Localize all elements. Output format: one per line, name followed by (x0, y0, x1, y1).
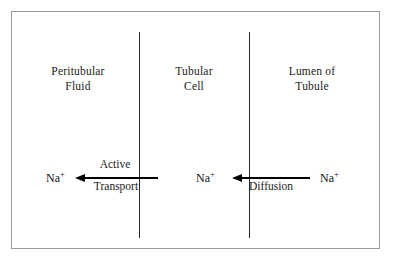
ion-label-sodium-cell: Na+ (196, 172, 215, 184)
ion-label-sodium-lumen: Na+ (320, 172, 339, 184)
ion-symbol: Na (46, 171, 60, 185)
compartment-label-peritubular-fluid: Peritubular Fluid (26, 64, 130, 94)
basolateral-membrane-line (139, 32, 140, 238)
active-transport-label-above: Active (82, 158, 148, 171)
ion-symbol: Na (320, 171, 334, 185)
ion-charge: + (60, 169, 65, 179)
arrow-shaft (240, 177, 310, 179)
ion-label-sodium-peritubular: Na+ (46, 172, 65, 184)
compartment-label-lumen-of-tubule: Lumen of Tubule (262, 64, 362, 94)
luminal-membrane-line (249, 32, 250, 238)
ion-charge: + (210, 169, 215, 179)
ion-charge: + (334, 169, 339, 179)
transport-diagram: Peritubular Fluid Tubular Cell Lumen of … (0, 0, 395, 266)
diagram-border (11, 11, 380, 249)
ion-symbol: Na (196, 171, 210, 185)
diffusion-label-below: Diffusion (232, 180, 310, 193)
arrow-shaft (83, 177, 158, 179)
active-transport-label-below: Transport (74, 180, 158, 193)
compartment-label-tubular-cell: Tubular Cell (150, 64, 238, 94)
